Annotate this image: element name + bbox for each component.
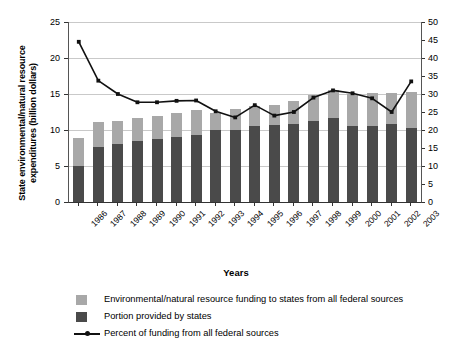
line-marker [194,99,198,103]
legend-label-percent-line: Percent of funding from all federal sour… [104,325,279,342]
line-marker [214,109,218,113]
x-tick-label-1994: 1994 [246,209,266,229]
line-marker [390,110,394,114]
legend-swatch-dark [76,312,87,322]
y-tick-label-right: 40 [428,54,454,63]
y-tick-label-right: 30 [428,90,454,99]
legend-line-dot-marker [85,331,90,336]
x-tick-label-1995: 1995 [265,209,285,229]
line-marker [155,100,159,104]
x-tick-mark [78,203,79,206]
x-tick-mark [97,203,98,206]
x-tick-label-1998: 1998 [324,209,344,229]
legend-label-federal-funding: Environmental/natural resource funding t… [104,291,403,308]
y-tick-label-right: 10 [428,162,454,171]
line-markers [77,40,413,119]
x-tick-label-2002: 2002 [402,209,422,229]
y-tick-label-left: 10 [34,126,60,135]
y-tick-label-left: 20 [34,54,60,63]
y-tick-label-left: 15 [34,90,60,99]
plot-area [68,22,422,203]
legend-item-percent-line: Percent of funding from all federal sour… [76,325,466,342]
legend-swatch-light [76,295,87,305]
x-tick-mark [136,203,137,206]
y-tick-label-left: 25 [34,18,60,27]
line-path [79,42,411,118]
y-tick-label-right: 45 [428,36,454,45]
x-tick-mark [273,203,274,206]
x-tick-mark [156,203,157,206]
x-tick-mark [176,203,177,206]
line-series [69,22,421,202]
x-tick-label-2003: 2003 [422,209,442,229]
x-tick-label-1988: 1988 [128,209,148,229]
y-tick-label-left: 0 [34,198,60,207]
line-marker [272,114,276,118]
x-tick-label-1999: 1999 [344,209,364,229]
x-tick-label-1986: 1986 [89,209,109,229]
y-tick-label-right: 15 [428,144,454,153]
x-tick-mark [352,203,353,206]
x-tick-label-1997: 1997 [304,209,324,229]
line-marker [136,100,140,104]
x-tick-label-1996: 1996 [285,209,305,229]
line-marker [233,116,237,120]
x-tick-label-1987: 1987 [109,209,129,229]
y-tick-label-right: 0 [428,198,454,207]
y-tick-label-right: 25 [428,108,454,117]
line-marker [253,103,257,107]
x-tick-mark [391,203,392,206]
x-tick-mark [234,203,235,206]
x-tick-mark [117,203,118,206]
x-tick-mark [410,203,411,206]
chart-legend: Environmental/natural resource funding t… [76,291,466,342]
x-tick-label-1990: 1990 [168,209,188,229]
x-tick-mark [293,203,294,206]
x-tick-label-2001: 2001 [383,209,403,229]
y-tick-label-right: 20 [428,126,454,135]
y-tick-label-right: 5 [428,180,454,189]
y-tick-label-right: 35 [428,72,454,81]
line-marker [77,40,81,44]
chart-figure: State environmental/natural resource exp… [0,0,472,348]
x-tick-label-1992: 1992 [207,209,227,229]
x-axis-title: Years [0,267,472,278]
line-marker [96,79,100,83]
x-tick-label-1991: 1991 [187,209,207,229]
x-tick-label-1993: 1993 [226,209,246,229]
line-marker [409,80,413,84]
x-tick-mark [312,203,313,206]
line-marker [175,99,179,103]
x-tick-label-1989: 1989 [148,209,168,229]
line-marker [351,91,355,95]
x-tick-label-2000: 2000 [363,209,383,229]
line-marker [292,110,296,114]
y-tick-label-right: 50 [428,18,454,27]
x-tick-mark [215,203,216,206]
x-tick-mark [332,203,333,206]
x-tick-mark [254,203,255,206]
line-marker [116,92,120,96]
line-marker [312,96,316,100]
x-tick-mark [195,203,196,206]
legend-label-state-portion: Portion provided by states [104,308,212,325]
line-marker [370,96,374,100]
line-marker [331,89,335,93]
x-tick-mark [371,203,372,206]
y-tick-label-left: 5 [34,162,60,171]
legend-item-federal-funding: Environmental/natural resource funding t… [76,291,466,308]
legend-item-state-portion: Portion provided by states [76,308,466,325]
